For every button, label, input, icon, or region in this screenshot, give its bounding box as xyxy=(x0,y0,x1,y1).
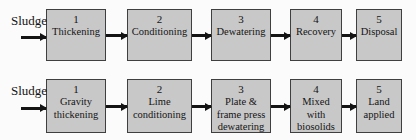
process-box-number: 3 xyxy=(238,13,244,26)
process-box-number: 1 xyxy=(73,13,79,26)
process-box-label: Thickening xyxy=(52,26,100,39)
source-cell: Sludge xyxy=(8,79,46,133)
sludge-label: Sludge xyxy=(11,14,47,28)
process-box-land-applied: 5 Land applied xyxy=(356,79,402,133)
process-box-number: 1 xyxy=(73,83,79,96)
process-box-conditioning: 2 Conditioning xyxy=(127,9,192,61)
flow-row-generic-stages: Sludge 1 Thickening 2 Conditioning 3 Dew… xyxy=(8,9,402,61)
process-box-mixed-with-biosolids: 4 Mixed with biosolids xyxy=(290,79,342,133)
sludge-arrow-icon xyxy=(21,36,46,39)
process-box-label: Dewatering xyxy=(217,26,266,39)
process-box-label: Disposal xyxy=(361,26,398,39)
process-box-label: Gravity thickening xyxy=(54,96,98,121)
sludge-process-diagram: Sludge 1 Thickening 2 Conditioning 3 Dew… xyxy=(0,0,416,140)
process-box-number: 5 xyxy=(376,13,382,26)
process-box-dewatering: 3 Dewatering xyxy=(211,9,271,61)
process-box-number: 4 xyxy=(313,13,319,26)
process-box-gravity-thickening: 1 Gravity thickening xyxy=(46,79,106,133)
process-box-label: Mixed with biosolids xyxy=(297,96,335,133)
process-box-label: Plate & frame press dewatering xyxy=(217,96,266,133)
process-box-number: 5 xyxy=(376,83,382,96)
flow-arrow-icon xyxy=(271,34,290,37)
process-box-plate-frame-press: 3 Plate & frame press dewatering xyxy=(211,79,271,133)
process-box-label: Land applied xyxy=(364,96,395,121)
sludge-arrow-icon xyxy=(21,107,46,110)
process-box-label: Conditioning xyxy=(132,26,187,39)
process-box-label: Lime conditioning xyxy=(133,96,186,121)
flow-arrow-icon xyxy=(342,105,356,108)
flow-arrow-icon xyxy=(271,105,290,108)
flow-arrow-icon xyxy=(192,105,211,108)
sludge-label: Sludge xyxy=(11,84,47,98)
process-box-lime-conditioning: 2 Lime conditioning xyxy=(127,79,192,133)
process-box-number: 4 xyxy=(313,83,319,96)
process-box-thickening: 1 Thickening xyxy=(46,9,106,61)
process-box-disposal: 5 Disposal xyxy=(356,9,402,61)
process-box-number: 2 xyxy=(157,13,163,26)
source-cell: Sludge xyxy=(8,9,46,61)
flow-arrow-icon xyxy=(192,34,211,37)
process-box-number: 3 xyxy=(238,83,244,96)
process-box-number: 2 xyxy=(157,83,163,96)
process-box-label: Recovery xyxy=(296,26,336,39)
flow-arrow-icon xyxy=(342,34,356,37)
process-box-recovery: 4 Recovery xyxy=(290,9,342,61)
flow-arrow-icon xyxy=(106,34,127,37)
flow-arrow-icon xyxy=(106,105,127,108)
flow-row-example-processes: Sludge 1 Gravity thickening 2 Lime condi… xyxy=(8,79,402,133)
